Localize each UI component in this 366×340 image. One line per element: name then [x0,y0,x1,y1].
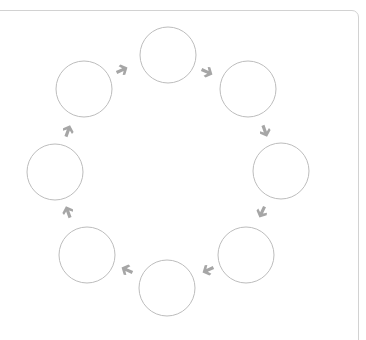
arrow-icon [61,123,76,138]
arrow-icon [258,123,273,138]
cycle-node-top-right[interactable] [220,61,276,117]
cycle-node-bottom-left[interactable] [59,227,115,283]
arrow-icon [200,262,216,277]
nodes-layer [27,27,309,316]
cycle-node-bottom[interactable] [139,260,195,316]
cycle-node-top-left[interactable] [56,61,112,117]
diagram-canvas [0,0,366,340]
cycle-node-right[interactable] [253,143,309,199]
cycle-node-left[interactable] [27,144,83,200]
arrow-icon [199,64,215,79]
cycle-diagram [0,0,366,340]
arrow-icon [254,204,269,220]
arrow-icon [114,62,130,77]
arrow-icon [61,204,76,219]
cycle-node-bottom-right[interactable] [218,227,274,283]
cycle-node-top[interactable] [140,27,196,83]
arrow-icon [119,262,135,277]
